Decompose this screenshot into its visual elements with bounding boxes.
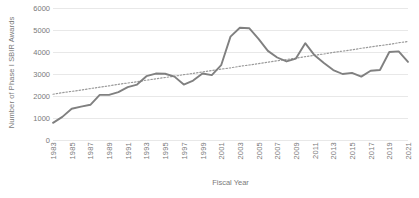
- x-tick-label: 2009: [292, 142, 301, 160]
- y-tick-label: 4000: [33, 48, 50, 57]
- x-tick-label: 1989: [105, 142, 114, 160]
- x-tick-label: 2015: [348, 142, 357, 160]
- x-tick-label: 2003: [236, 142, 245, 160]
- y-tick-label: 2000: [33, 92, 50, 101]
- y-axis-tick-labels: 0100020003000400050006000: [18, 8, 50, 140]
- x-tick-label: 1987: [86, 142, 95, 160]
- plot-area: [53, 8, 408, 140]
- gridline: [53, 140, 408, 141]
- x-tick-label: 1995: [161, 142, 170, 160]
- y-tick-label: 6000: [33, 4, 50, 13]
- x-axis-tick-labels: 1983198519871989199119931995199719992001…: [53, 142, 408, 176]
- y-tick-label: 5000: [33, 26, 50, 35]
- x-tick-label: 1991: [124, 142, 133, 160]
- x-tick-label: 1993: [142, 142, 151, 160]
- x-tick-label: 2001: [217, 142, 226, 160]
- y-axis-title: Number of Phase I SBIR Awards: [7, 8, 16, 138]
- x-tick-label: 2013: [329, 142, 338, 160]
- x-tick-label: 2017: [367, 142, 376, 160]
- x-tick-label: 1999: [199, 142, 208, 160]
- x-tick-label: 2021: [404, 142, 413, 160]
- y-tick-label: 3000: [33, 70, 50, 79]
- x-tick-label: 2007: [273, 142, 282, 160]
- awards-line-series: [53, 28, 408, 123]
- series-canvas: [53, 8, 408, 140]
- trend-line-series: [53, 41, 408, 94]
- x-tick-label: 1985: [68, 142, 77, 160]
- x-tick-label: 1983: [49, 142, 58, 160]
- sbir-awards-line-chart: Number of Phase I SBIR Awards 0100020003…: [0, 0, 419, 198]
- x-tick-label: 2011: [311, 142, 320, 159]
- x-tick-label: 2005: [255, 142, 264, 160]
- x-axis-title: Fiscal Year: [53, 178, 408, 187]
- y-tick-label: 1000: [33, 114, 50, 123]
- x-tick-label: 2019: [385, 142, 394, 160]
- x-tick-label: 1997: [180, 142, 189, 160]
